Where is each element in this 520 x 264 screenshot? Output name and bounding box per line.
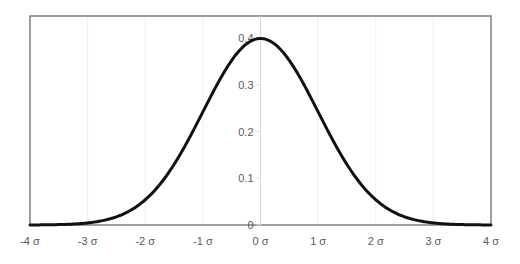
normal-distribution-chart: 00.10.20.30.4 -4 σ-3 σ-2 σ-1 σ0 σ1 σ2 σ3… bbox=[0, 0, 520, 264]
y-axis-ticks: 00.10.20.30.4 bbox=[238, 32, 260, 231]
x-tick-label: -3 σ bbox=[78, 235, 98, 247]
y-tick-label: 0.1 bbox=[238, 172, 253, 184]
x-tick-label: 0 σ bbox=[253, 235, 269, 247]
y-tick-label: 0 bbox=[247, 219, 253, 231]
x-tick-label: -1 σ bbox=[193, 235, 213, 247]
x-tick-label: -2 σ bbox=[135, 235, 155, 247]
x-tick-label: -4 σ bbox=[20, 235, 40, 247]
x-tick-label: 1 σ bbox=[310, 235, 326, 247]
x-axis-ticks: -4 σ-3 σ-2 σ-1 σ0 σ1 σ2 σ3 σ4 σ bbox=[20, 235, 499, 247]
y-tick-label: 0.2 bbox=[238, 126, 253, 138]
x-tick-label: 3 σ bbox=[425, 235, 441, 247]
y-tick-label: 0.3 bbox=[238, 79, 253, 91]
x-tick-label: 4 σ bbox=[483, 235, 499, 247]
x-tick-label: 2 σ bbox=[368, 235, 384, 247]
